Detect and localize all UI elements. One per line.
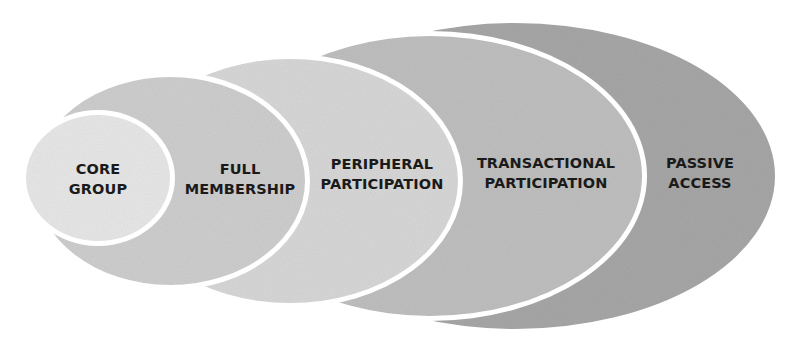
label-line-2: ACCESS: [666, 173, 734, 193]
label-full-membership: FULL MEMBERSHIP: [185, 159, 296, 199]
label-line-1: FULL: [185, 159, 296, 179]
label-peripheral-participation: PERIPHERAL PARTICIPATION: [321, 154, 444, 194]
label-transactional-participation: TRANSACTIONAL PARTICIPATION: [477, 153, 615, 193]
label-core-group: CORE GROUP: [69, 159, 127, 199]
label-line-1: TRANSACTIONAL: [477, 153, 615, 173]
label-line-2: PARTICIPATION: [477, 173, 615, 193]
label-line-1: CORE: [69, 159, 127, 179]
label-line-2: PARTICIPATION: [321, 174, 444, 194]
label-line-1: PERIPHERAL: [321, 154, 444, 174]
label-line-2: MEMBERSHIP: [185, 179, 296, 199]
label-passive-access: PASSIVE ACCESS: [666, 153, 734, 193]
label-line-2: GROUP: [69, 179, 127, 199]
label-line-1: PASSIVE: [666, 153, 734, 173]
